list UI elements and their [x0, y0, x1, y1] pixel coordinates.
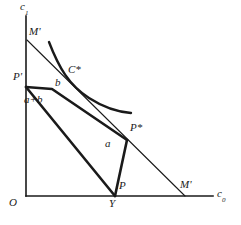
label-p-prime: P'	[13, 71, 22, 82]
x-axis-label-sub: 0	[222, 196, 226, 204]
label-m-prime-top: M'	[29, 26, 41, 37]
label-c-star: C*	[68, 64, 81, 75]
label-y: Y	[109, 198, 115, 209]
label-b: b	[55, 77, 61, 88]
label-p: P	[119, 180, 126, 191]
label-m-prime-bottom: M'	[180, 179, 192, 190]
label-a: a	[105, 138, 111, 149]
label-origin: O	[9, 197, 17, 208]
label-a-plus-b: a+b	[24, 94, 42, 105]
y-axis-label-sub: 1	[25, 9, 29, 17]
x-axis-label: c0	[217, 188, 225, 202]
y-axis-label: c1	[20, 1, 28, 15]
label-p-star: P*	[130, 122, 142, 133]
economics-diagram: c1 c0 M' M' P' b a+b C* P* a P Y O	[0, 0, 241, 225]
